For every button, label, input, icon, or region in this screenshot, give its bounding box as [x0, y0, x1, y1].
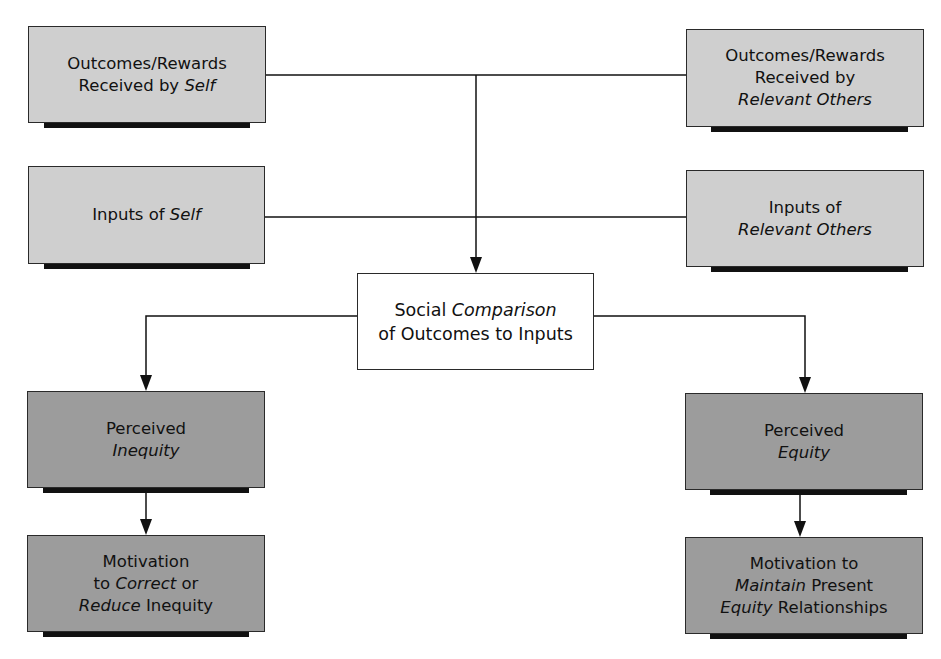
connector-to-inequity — [146, 316, 357, 376]
node-label-emphasis: Self — [184, 76, 215, 95]
node-label-emphasis: Comparison — [452, 300, 557, 320]
node-label-line: of Outcomes to Inputs — [378, 322, 573, 346]
shadow-outcomes-others — [711, 127, 908, 132]
node-inputs-others: Inputs ofRelevant Others — [686, 170, 924, 267]
node-label-line: Social Comparison — [378, 298, 573, 322]
node-label-line: Equity Relationships — [720, 597, 887, 619]
node-label-line: Perceived — [764, 420, 844, 442]
node-label-line: Outcomes/Rewards — [67, 53, 227, 75]
arrowhead-to-equity — [799, 377, 811, 393]
node-label-text: Motivation to — [750, 554, 859, 573]
connector-to-equity — [594, 316, 805, 378]
node-label-text: to — [94, 574, 116, 593]
node-label-line: Equity — [764, 442, 844, 464]
node-label-text: Outcomes/Rewards — [725, 46, 885, 65]
node-label-text: Present — [806, 576, 873, 595]
node-social-comparison: Social Comparisonof Outcomes to Inputs — [357, 273, 594, 370]
arrowhead-inequity-to-motivation — [140, 519, 152, 535]
node-label-text: Received by — [79, 76, 185, 95]
node-outcomes-others: Outcomes/RewardsReceived byRelevant Othe… — [686, 29, 924, 127]
node-label-emphasis: Reduce — [79, 596, 141, 615]
node-label-text: Inequity — [141, 596, 213, 615]
node-label-text: Motivation — [103, 552, 190, 571]
arrowhead-to-comparison — [470, 257, 482, 273]
node-label-emphasis: Maintain — [735, 576, 806, 595]
node-label-line: Inequity — [106, 440, 186, 462]
node-label-text: or — [176, 574, 198, 593]
node-label-line: Relevant Others — [725, 89, 885, 111]
node-perceived-equity: PerceivedEquity — [685, 393, 923, 490]
node-label-line: Inputs of — [738, 197, 872, 219]
node-inputs-self: Inputs of Self — [28, 166, 265, 264]
shadow-motivation-correct — [43, 632, 249, 637]
arrowhead-equity-to-motivation — [794, 521, 806, 537]
node-label-emphasis: Relevant Others — [738, 220, 872, 239]
shadow-outcomes-self — [44, 123, 250, 128]
shadow-perceived-inequity — [43, 488, 249, 493]
node-label-text: Received by — [755, 68, 856, 87]
node-label-emphasis: Inequity — [112, 441, 179, 460]
node-label-line: Perceived — [106, 418, 186, 440]
node-label-text: Social — [394, 300, 451, 320]
node-label-line: Received by — [725, 67, 885, 89]
shadow-inputs-self — [44, 264, 250, 269]
node-label-line: Maintain Present — [720, 575, 887, 597]
node-label-line: to Correct or — [79, 573, 213, 595]
node-label-text: Perceived — [106, 419, 186, 438]
node-label-text: Relationships — [773, 598, 888, 617]
node-motivation-maintain: Motivation toMaintain PresentEquity Rela… — [685, 537, 923, 634]
node-label-text: Inputs of — [92, 205, 170, 224]
node-label-line: Outcomes/Rewards — [725, 45, 885, 67]
node-label-text: Outcomes/Rewards — [67, 54, 227, 73]
node-label-line: Relevant Others — [738, 219, 872, 241]
node-label-text: of Outcomes to Inputs — [378, 324, 573, 344]
node-label-line: Motivation to — [720, 553, 887, 575]
node-label-emphasis: Equity — [720, 598, 772, 617]
equity-theory-diagram: Outcomes/RewardsReceived by Self Outcome… — [0, 0, 941, 659]
shadow-motivation-maintain — [710, 634, 907, 639]
node-label-emphasis: Self — [170, 205, 201, 224]
node-label-line: Motivation — [79, 551, 213, 573]
arrowhead-to-inequity — [140, 375, 152, 391]
node-label-emphasis: Correct — [115, 574, 176, 593]
node-label-line: Reduce Inequity — [79, 595, 213, 617]
node-label-emphasis: Equity — [778, 443, 830, 462]
node-label-text: Perceived — [764, 421, 844, 440]
node-perceived-inequity: PerceivedInequity — [27, 391, 265, 488]
shadow-perceived-equity — [710, 490, 907, 495]
shadow-inputs-others — [711, 267, 908, 272]
node-motivation-correct: Motivationto Correct orReduce Inequity — [27, 535, 265, 632]
node-label-line: Inputs of Self — [92, 204, 201, 226]
node-outcomes-self: Outcomes/RewardsReceived by Self — [28, 26, 266, 123]
node-label-text: Inputs of — [769, 198, 841, 217]
node-label-emphasis: Relevant Others — [738, 90, 872, 109]
node-label-line: Received by Self — [67, 75, 227, 97]
